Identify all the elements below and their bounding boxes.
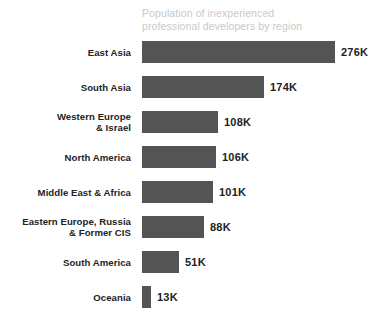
category-label: South Asia — [0, 76, 131, 98]
bar-area: 101K — [142, 181, 246, 203]
category-label-line: Middle East & Africa — [38, 187, 131, 198]
bar-area: 13K — [142, 286, 178, 308]
chart-title-line-2: professional developers by region — [142, 20, 372, 33]
bar-value-label: 108K — [224, 116, 251, 128]
category-label-line: Eastern Europe, Russia — [22, 216, 131, 227]
category-label-line: North America — [65, 152, 131, 163]
chart-row: Eastern Europe, Russia & Former CIS 88K — [0, 216, 390, 251]
category-label: East Asia — [0, 41, 131, 63]
bar-value-label: 13K — [157, 291, 178, 303]
bar-area: 106K — [142, 146, 249, 168]
bar-chart: Population of inexperienced professional… — [0, 0, 390, 317]
category-label: South America — [0, 251, 131, 273]
category-label: Western Europe & Israel — [0, 111, 131, 133]
bar — [142, 76, 264, 98]
chart-row: Oceania 13K — [0, 286, 390, 317]
bar-area: 174K — [142, 76, 297, 98]
bar — [142, 41, 335, 63]
bar — [142, 251, 179, 273]
bar-area: 276K — [142, 41, 368, 63]
bar-area: 108K — [142, 111, 251, 133]
chart-row: Middle East & Africa 101K — [0, 181, 390, 216]
chart-title-line-1: Population of inexperienced — [142, 7, 372, 20]
category-label: Middle East & Africa — [0, 181, 131, 203]
bar-value-label: 51K — [185, 256, 206, 268]
bar — [142, 111, 218, 133]
bar-value-label: 174K — [270, 81, 297, 93]
bar — [142, 216, 204, 238]
category-label-line: East Asia — [88, 47, 131, 58]
bar-value-label: 88K — [210, 221, 231, 233]
category-label: Oceania — [0, 286, 131, 308]
bar — [142, 286, 151, 308]
bar-value-label: 101K — [219, 186, 246, 198]
chart-row: South America 51K — [0, 251, 390, 286]
category-label-line: Western Europe — [57, 111, 131, 122]
chart-row: North America 106K — [0, 146, 390, 181]
category-label-line: South America — [63, 257, 131, 268]
category-label-line: Oceania — [93, 292, 131, 303]
chart-row: Western Europe & Israel 108K — [0, 111, 390, 146]
category-label-line: & Israel — [96, 122, 131, 133]
bar-area: 88K — [142, 216, 231, 238]
chart-plot-area: East Asia 276K South Asia 174K Western E… — [0, 41, 390, 317]
category-label-line: & Former CIS — [69, 227, 131, 238]
category-label-line: South Asia — [81, 82, 131, 93]
bar-area: 51K — [142, 251, 206, 273]
bar — [142, 146, 216, 168]
category-label: Eastern Europe, Russia & Former CIS — [0, 216, 131, 238]
bar-value-label: 106K — [222, 151, 249, 163]
chart-title: Population of inexperienced professional… — [142, 7, 372, 32]
bar — [142, 181, 213, 203]
category-label: North America — [0, 146, 131, 168]
chart-row: East Asia 276K — [0, 41, 390, 76]
bar-value-label: 276K — [341, 46, 368, 58]
chart-row: South Asia 174K — [0, 76, 390, 111]
